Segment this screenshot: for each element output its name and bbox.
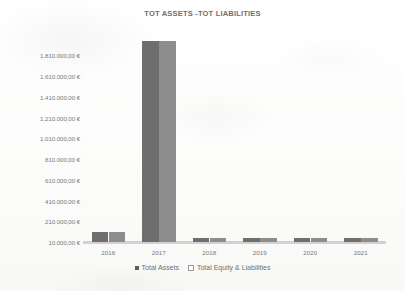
bar-total-equity-liabilities-2016[interactable] [109,232,126,242]
x-tick-label: 2020 [290,249,330,256]
y-axis: 10.000,00 €210.000,00 €410.000,00 €610.0… [4,0,80,291]
legend-label: Total Equity & Liabilities [197,264,271,271]
x-tick-label: 2021 [341,249,381,256]
y-tick-label: 1.810.000,00 € [4,52,80,59]
chart-legend: Total AssetsTotal Equity & Liabilities [0,264,405,271]
bar-total-assets-2018[interactable] [193,238,210,242]
bar-total-assets-2021[interactable] [344,238,361,242]
y-tick-label: 610.000,00 € [4,176,80,183]
bar-total-assets-2017[interactable] [142,41,159,242]
bar-total-assets-2019[interactable] [243,238,260,242]
bar-total-equity-liabilities-2018[interactable] [210,238,227,242]
y-tick-label: 1.210.000,00 € [4,114,80,121]
bar-total-equity-liabilities-2019[interactable] [260,238,277,242]
plot-area: 10.000,00 €210.000,00 €410.000,00 €610.0… [0,0,405,291]
x-tick-label: 2019 [240,249,280,256]
y-tick-label: 10.000,00 € [4,239,80,246]
bar-total-assets-2016[interactable] [92,232,109,242]
y-tick-label: 1.010.000,00 € [4,135,80,142]
legend-entry[interactable]: Total Assets [135,264,179,271]
bar-total-assets-2020[interactable] [294,238,311,242]
legend-label: Total Assets [142,264,179,271]
hollow-square-icon [188,265,194,271]
bar-total-equity-liabilities-2017[interactable] [159,41,176,242]
x-axis-line [83,241,386,244]
legend-entry[interactable]: Total Equity & Liabilities [188,264,271,271]
y-tick-label: 410.000,00 € [4,197,80,204]
y-tick-label: 210.000,00 € [4,218,80,225]
bar-total-equity-liabilities-2021[interactable] [361,238,378,242]
y-tick-label: 1.410.000,00 € [4,93,80,100]
y-tick-label: 1.610.000,00 € [4,73,80,80]
x-tick-label: 2016 [88,249,128,256]
x-tick-label: 2018 [189,249,229,256]
bar-total-equity-liabilities-2020[interactable] [311,238,328,242]
filled-square-icon [135,266,139,270]
y-tick-label: 810.000,00 € [4,156,80,163]
chart-screenshot: TOT ASSETS -TOT LIABILITIES 10.000,00 €2… [0,0,405,291]
x-tick-label: 2017 [139,249,179,256]
